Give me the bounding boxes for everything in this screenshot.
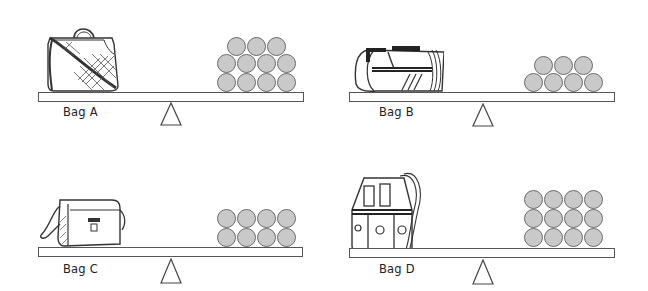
weight-ball bbox=[544, 190, 563, 209]
balance-panel-d: Bag D bbox=[0, 0, 648, 291]
bag-label: Bag D bbox=[379, 262, 415, 276]
balance-board bbox=[349, 248, 615, 258]
weight-ball bbox=[564, 209, 583, 228]
weight-ball bbox=[524, 209, 543, 228]
weight-ball bbox=[524, 228, 543, 247]
weight-ball bbox=[584, 209, 603, 228]
weight-ball bbox=[544, 209, 563, 228]
weight-ball bbox=[544, 228, 563, 247]
weight-ball bbox=[584, 228, 603, 247]
weight-ball bbox=[564, 228, 583, 247]
drawstring-bag-icon bbox=[350, 170, 426, 258]
weight-ball bbox=[564, 190, 583, 209]
weight-ball bbox=[584, 190, 603, 209]
fulcrum-triangle-icon bbox=[471, 259, 495, 285]
weight-ball bbox=[524, 190, 543, 209]
